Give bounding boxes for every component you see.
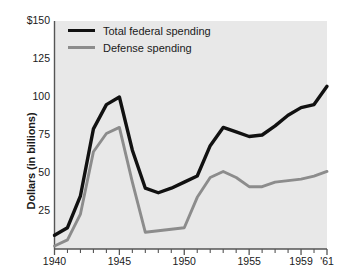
legend-swatch-total [68, 29, 95, 32]
legend-item: Total federal spending [68, 22, 258, 39]
legend-label: Total federal spending [103, 25, 211, 37]
legend-label: Defense spending [103, 42, 192, 54]
y-tick-label: 50 [14, 166, 50, 178]
legend-item: Defense spending [68, 39, 258, 56]
y-tick-label: 25 [14, 204, 50, 216]
y-tick-label: 75 [14, 128, 50, 140]
y-tick-label: 100 [14, 90, 50, 102]
y-tick-label: 125 [14, 52, 50, 64]
y-axis-tick-labels: $150125100755025 [12, 0, 50, 278]
spending-line-chart: Dollars (in billions) $150125100755025 1… [0, 0, 347, 278]
chart-legend: Total federal spendingDefense spending [68, 22, 258, 56]
legend-swatch-defense [68, 46, 95, 49]
y-tick-label: $150 [14, 14, 50, 26]
